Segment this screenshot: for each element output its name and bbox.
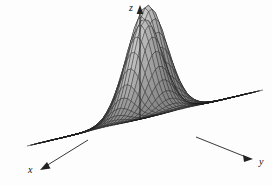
surface-plot-figure: z x y (0, 0, 272, 185)
surface-mesh (27, 5, 263, 146)
y-axis-label: y (258, 156, 264, 167)
z-axis-label: z (128, 2, 133, 13)
surface-plot-canvas: z x y (0, 0, 272, 185)
x-axis-label: x (27, 164, 33, 175)
